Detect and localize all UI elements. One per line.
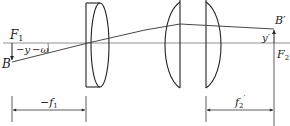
- label-B: B: [1, 57, 11, 71]
- label-B-prime: B′: [274, 14, 286, 27]
- label-minus-omega: −ω: [32, 44, 49, 55]
- label-f2-prime: f2′: [234, 93, 246, 110]
- lens-2: [165, 0, 221, 88]
- label-minus-y: −y: [16, 44, 30, 55]
- label-F2-prime: F2: [276, 48, 289, 62]
- label-F1: F1: [9, 28, 23, 43]
- lens-1: [86, 3, 109, 87]
- label-y-prime: y′: [261, 32, 271, 43]
- optical-diagram: F1 B −y −ω B′ y′ F2 −f1 f2′: [0, 0, 290, 126]
- label-minus-f1: −f1: [40, 96, 58, 110]
